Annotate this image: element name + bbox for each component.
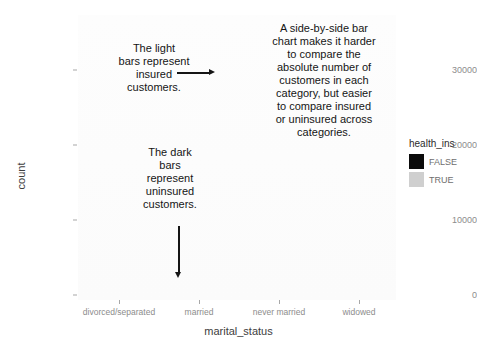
annotation-side-by-side-note: A side-by-side bar chart makes it harder…: [262, 22, 386, 139]
y-tick-mark-0: [73, 295, 77, 296]
x-tick-label-married: married: [185, 307, 214, 317]
x-tick-mark-widowed: [359, 300, 360, 304]
arrow-down-icon: [175, 226, 183, 280]
bar-widowed-true: [359, 262, 390, 300]
arrow-head: [175, 272, 181, 278]
chart-root: 30000 20000 10000 0 count divorced/separ…: [0, 0, 477, 351]
arrow-head: [209, 69, 215, 75]
bar-divorced-separated-false: [88, 289, 119, 300]
arrow-line: [177, 72, 209, 74]
annotation-light-bars: The light bars represent insured custome…: [98, 42, 210, 94]
legend-item-true[interactable]: TRUE: [409, 172, 457, 187]
x-tick-label-widowed: widowed: [342, 307, 375, 317]
arrow-line: [178, 226, 180, 272]
x-tick-mark-married: [199, 300, 200, 304]
y-tick-mark-20000: [73, 145, 77, 146]
legend-key-true: [409, 172, 424, 187]
bar-never-married-true: [279, 175, 310, 300]
x-tick-label-divorced-separated: divorced/separated: [83, 307, 155, 317]
bar-married-false: [168, 277, 199, 300]
legend-key-false: [409, 154, 424, 169]
x-tick-mark-divorced-separated: [119, 300, 120, 304]
y-tick-mark-10000: [73, 220, 77, 221]
y-tick-label-0: 0: [407, 290, 477, 300]
legend-label-true: TRUE: [429, 175, 454, 185]
x-tick-label-never-married: never married: [253, 307, 305, 317]
x-axis-title: marital_status: [0, 325, 477, 337]
annotation-dark-bars: The dark bars represent uninsured custom…: [128, 146, 212, 211]
legend-title: health_ins: [409, 138, 457, 149]
legend-item-false[interactable]: FALSE: [409, 154, 457, 169]
x-tick-mark-never-married: [279, 300, 280, 304]
legend: health_ins FALSE TRUE: [409, 138, 457, 190]
legend-label-false: FALSE: [429, 157, 457, 167]
bar-divorced-separated-true: [119, 226, 150, 300]
arrow-right-icon: [177, 69, 217, 77]
y-tick-label-10000: 10000: [407, 215, 477, 225]
y-axis-title: count: [15, 162, 27, 189]
bar-never-married-false: [248, 274, 279, 300]
y-tick-label-30000: 30000: [407, 65, 477, 75]
y-tick-mark-30000: [73, 70, 77, 71]
bar-widowed-false: [328, 297, 359, 300]
